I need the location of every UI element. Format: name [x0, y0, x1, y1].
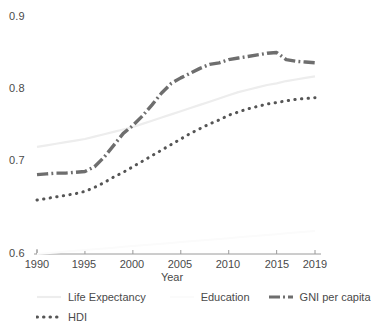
legend-item-education[interactable]: Education [169, 291, 250, 303]
x-tick-label-5: 2015 [257, 258, 297, 270]
legend-swatch-life-expectancy-icon [36, 292, 62, 302]
legend-item-hdi[interactable]: HDI [36, 311, 87, 323]
x-tick-label-4: 2010 [208, 258, 248, 270]
x-tick-label-0: 1990 [17, 258, 57, 270]
legend-swatch-hdi-icon [36, 312, 62, 322]
legend-row-2: HDI [36, 311, 87, 323]
legend-item-gni-per-capita[interactable]: GNI per capita [268, 291, 371, 303]
legend-label-hdi: HDI [68, 311, 87, 323]
legend-label-education: Education [201, 291, 250, 303]
x-tick-label-3: 2005 [160, 258, 200, 270]
series-line-life-expectancy [37, 76, 315, 147]
legend-label-gni-per-capita: GNI per capita [300, 291, 371, 303]
x-tick-label-2: 2000 [112, 258, 152, 270]
legend-swatch-education-icon [169, 292, 195, 302]
x-tick-label-6: 2019 [295, 258, 335, 270]
legend-swatch-gni-per-capita-icon [268, 292, 294, 302]
legend-label-life-expectancy: Life Expectancy [68, 291, 146, 303]
x-axis-title: Year [0, 271, 344, 283]
x-tick-label-1: 1995 [64, 258, 104, 270]
legend-row-1: Life Expectancy Education GNI per capita [36, 291, 371, 303]
legend-item-life-expectancy[interactable]: Life Expectancy [36, 291, 146, 303]
series-line-education [37, 231, 315, 254]
